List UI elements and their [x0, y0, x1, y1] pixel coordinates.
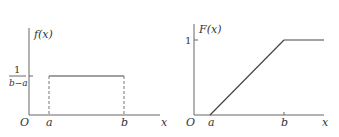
pdf-tick-b: b — [121, 116, 128, 129]
pdf-frac-denominator: b−a — [9, 78, 28, 88]
figure: f(x) 1 b−a O a b x F(x) 1 O a b x — [0, 0, 339, 137]
cdf-ylabel: F(x) — [198, 23, 221, 36]
cdf-tick-one: 1 — [185, 35, 191, 46]
cdf-tick-a: a — [208, 116, 215, 129]
cdf-tick-b: b — [281, 116, 288, 129]
cdf-plot: F(x) 1 O a b x — [185, 23, 329, 129]
pdf-frac-numerator: 1 — [14, 64, 20, 75]
pdf-xlabel: x — [161, 116, 168, 129]
cdf-xlabel: x — [322, 116, 329, 129]
pdf-plot: f(x) 1 b−a O a b x — [9, 28, 168, 129]
cdf-origin-label: O — [186, 116, 195, 129]
cdf-ramp-line — [210, 40, 284, 115]
pdf-tick-a: a — [46, 116, 53, 129]
pdf-origin-label: O — [20, 116, 29, 129]
pdf-ylabel: f(x) — [33, 28, 53, 41]
